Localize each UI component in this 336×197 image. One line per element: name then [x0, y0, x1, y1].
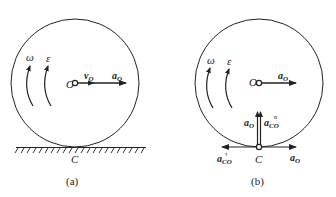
epsilon-arc-icon — [45, 66, 51, 106]
contact-point — [256, 144, 261, 149]
accel-right-label: aO — [290, 152, 300, 165]
rolling-disk-diagram: ω ε O vO aO C (a) ω ε O — [0, 0, 336, 197]
center-label: O — [249, 76, 257, 88]
tangent-superscript: τ — [225, 151, 228, 157]
center-point — [72, 80, 77, 85]
omega-label: ω — [207, 54, 215, 66]
panel-b: ω ε O aO aO aCO n aCO τ C aO (b) — [195, 19, 323, 188]
normal-superscript: n — [274, 114, 277, 120]
omega-arc-icon — [27, 66, 33, 106]
epsilon-label: ε — [227, 55, 232, 67]
caption-a: (a) — [66, 175, 79, 188]
accel-up-label: aO — [244, 117, 254, 130]
velocity-label: vO — [84, 70, 94, 83]
ground-hatch — [15, 148, 144, 153]
contact-label: C — [71, 153, 79, 165]
contact-label: C — [255, 153, 263, 165]
omega-label: ω — [26, 51, 34, 63]
epsilon-label: ε — [46, 52, 51, 64]
accel-label: aO — [112, 70, 122, 83]
epsilon-arc-icon — [226, 69, 232, 108]
panel-a: ω ε O vO aO C (a) — [11, 19, 146, 188]
caption-b: (b) — [251, 175, 264, 188]
center-point — [256, 80, 261, 85]
accel-center-label: aO — [278, 70, 288, 83]
omega-arc-icon — [207, 68, 213, 108]
